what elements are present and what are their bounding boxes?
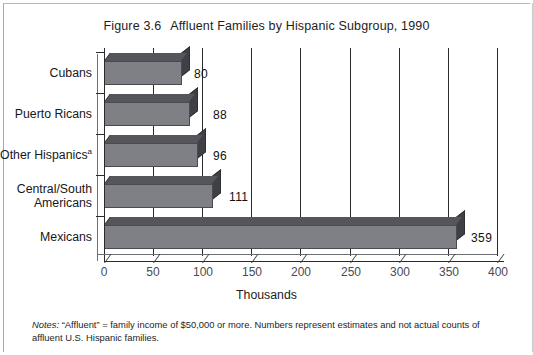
category-label-cubans-text: Cubans bbox=[50, 66, 92, 80]
category-tick-2 bbox=[96, 134, 105, 135]
category-tick-3 bbox=[96, 175, 105, 176]
figure-title: Figure 3.6Affluent Families by Hispanic … bbox=[0, 19, 533, 33]
value-axis-label-50: 50 bbox=[146, 265, 159, 279]
bar-value-mexicans: 359 bbox=[471, 231, 492, 245]
category-label-central-south-line2: Americans bbox=[17, 196, 92, 210]
value-axis-back bbox=[97, 254, 497, 255]
category-label-central-south-line1: Central/South bbox=[17, 182, 92, 196]
category-label-mexicans: Mexicans bbox=[40, 230, 92, 244]
bar-value-other-hispanics: 96 bbox=[213, 149, 227, 163]
category-label-puerto-ricans: Puerto Ricans bbox=[15, 107, 92, 121]
category-label-puerto-ricans-text: Puerto Ricans bbox=[15, 107, 92, 121]
value-axis-title: Thousands bbox=[0, 288, 533, 302]
category-axis-back bbox=[97, 54, 98, 261]
footnote-marker-a: a bbox=[88, 147, 92, 156]
category-tick-4 bbox=[96, 216, 105, 217]
figure-notes: Notes: “Affluent” = family income of $50… bbox=[32, 319, 504, 344]
bar-value-central-south-americans: 111 bbox=[229, 190, 248, 204]
category-tick-0 bbox=[96, 52, 105, 53]
category-label-cubans: Cubans bbox=[50, 66, 92, 80]
category-axis bbox=[104, 48, 105, 261]
notes-body: “Affluent” = family income of $50,000 or… bbox=[32, 319, 480, 343]
bar-value-puerto-ricans: 88 bbox=[213, 108, 227, 122]
figure-page: Figure 3.6Affluent Families by Hispanic … bbox=[0, 0, 533, 355]
value-axis-label-100: 100 bbox=[193, 265, 213, 279]
category-label-other-hispanics: Other Hispanicsa bbox=[0, 148, 92, 162]
value-axis-label-400: 400 bbox=[488, 265, 508, 279]
gridline-400 bbox=[497, 48, 498, 256]
value-axis-label-350: 350 bbox=[439, 265, 459, 279]
value-axis-label-300: 300 bbox=[390, 265, 410, 279]
bar-value-cubans: 80 bbox=[194, 67, 208, 81]
value-axis bbox=[104, 261, 504, 262]
value-axis-label-150: 150 bbox=[242, 265, 262, 279]
value-axis-label-250: 250 bbox=[341, 265, 361, 279]
figure-title-text: Affluent Families by Hispanic Subgroup, … bbox=[170, 19, 429, 33]
category-tick-1 bbox=[96, 93, 105, 94]
notes-lead: Notes: bbox=[32, 319, 59, 330]
category-label-central-south-americans: Central/South Americans bbox=[17, 182, 92, 210]
chart-plot-area: 0 50 100 150 200 250 300 350 400 80 88 9… bbox=[0, 44, 533, 269]
category-label-mexicans-text: Mexicans bbox=[40, 230, 92, 244]
figure-number: Figure 3.6 bbox=[103, 19, 161, 33]
value-axis-label-200: 200 bbox=[291, 265, 311, 279]
category-label-other-hispanics-text: Other Hispanics bbox=[0, 148, 87, 162]
value-axis-label-0: 0 bbox=[101, 265, 108, 279]
